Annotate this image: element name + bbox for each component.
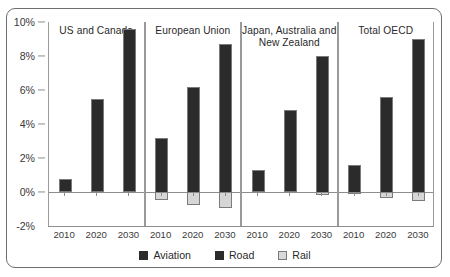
y-tick-label: 10% (14, 16, 35, 28)
legend-item: Aviation (139, 249, 191, 261)
bar-segment-aviation (412, 185, 425, 192)
y-tick-label: -2% (16, 220, 35, 232)
x-tick-label: 2030 (407, 229, 428, 240)
x-tick-label: 2030 (118, 229, 139, 240)
y-tick-label: 2% (20, 152, 35, 164)
legend-label: Road (229, 249, 254, 261)
x-tick-label: 2010 (150, 229, 171, 240)
bar-segment-aviation (187, 164, 200, 192)
bar-segment-road (187, 87, 200, 164)
legend-label: Aviation (153, 249, 191, 261)
bar-segment-road (219, 44, 232, 155)
legend-label: Rail (292, 249, 310, 261)
x-tick-label: 2010 (343, 229, 364, 240)
bar-segment-road (348, 165, 361, 188)
chart-figure: 10%8%6%4%2%0%-2% US and CanadaEuropean U… (0, 0, 450, 277)
y-tick-label: 4% (20, 118, 35, 130)
x-tick-mark (289, 192, 290, 196)
x-tick-label: 2010 (246, 229, 267, 240)
legend-swatch-icon (278, 251, 287, 260)
bar-segment-aviation (252, 170, 265, 192)
x-tick-mark (161, 192, 162, 196)
y-axis: 10%8%6%4%2%0%-2% (0, 22, 48, 226)
legend-swatch-icon (215, 251, 224, 260)
bar-segment-road (91, 99, 104, 193)
bar-segment-road (380, 97, 393, 186)
x-tick-mark (128, 192, 129, 196)
bar-segment-road (316, 56, 329, 190)
bar-segment-aviation (155, 178, 168, 192)
x-tick-label: 2020 (86, 229, 107, 240)
plot-area: US and CanadaEuropean UnionJapan, Austra… (48, 22, 434, 226)
x-tick-mark (386, 192, 387, 196)
x-tick-label: 2030 (214, 229, 235, 240)
y-tick-mark (38, 157, 45, 158)
bar-segment-aviation (219, 155, 232, 192)
legend-item: Rail (278, 249, 310, 261)
x-tick-mark (225, 192, 226, 196)
y-tick-label: 8% (20, 50, 35, 62)
y-tick-mark (38, 123, 45, 124)
y-tick-label: 6% (20, 84, 35, 96)
y-tick-mark (38, 191, 45, 192)
y-tick-label: 0% (20, 186, 35, 198)
y-tick-mark (38, 89, 45, 90)
x-tick-mark (64, 192, 65, 196)
x-tick-mark (96, 192, 97, 196)
x-tick-mark (321, 192, 322, 196)
x-tick-mark (418, 192, 419, 196)
x-tick-label: 2020 (279, 229, 300, 240)
bar-segment-road (412, 39, 425, 185)
x-tick-label: 2020 (182, 229, 203, 240)
x-tick-label: 2020 (375, 229, 396, 240)
x-axis-line (48, 226, 434, 227)
x-tick-label: 2030 (311, 229, 332, 240)
y-tick-mark (38, 55, 45, 56)
x-tick-mark (257, 192, 258, 196)
legend-swatch-icon (139, 251, 148, 260)
bar-segment-aviation (59, 179, 72, 192)
bar-segment-road (284, 110, 297, 192)
legend-item: Road (215, 249, 254, 261)
x-tick-mark (354, 192, 355, 196)
bar-segment-road (155, 138, 168, 178)
x-tick-label: 2010 (53, 229, 74, 240)
bar-segment-road (123, 29, 136, 192)
chart-legend: AviationRoadRail (0, 249, 450, 261)
x-tick-mark (193, 192, 194, 196)
y-tick-mark (38, 21, 45, 22)
